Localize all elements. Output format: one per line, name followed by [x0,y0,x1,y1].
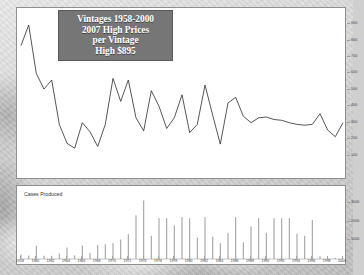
x-tick-label: 1970 [108,259,116,263]
y-tick [347,239,350,240]
cases-bar [105,244,106,259]
cases-plot-area [17,186,345,264]
cases-bar [281,218,282,259]
cases-bar [212,237,213,259]
cases-produced-label: Cases Produced [24,191,62,197]
cases-bar [228,233,229,259]
y-tick-label: 200 [351,136,357,140]
cases-bar-series [17,186,345,264]
x-tick-label: 1964 [62,259,70,263]
cases-bar [143,200,144,259]
y-tick-label: 800 [351,38,357,42]
cases-bar [243,242,244,259]
x-tick-label: 1962 [47,259,55,263]
x-tick-label: 1958 [16,259,24,263]
cases-produced-panel: Cases Produced [16,185,346,265]
cases-bar [304,236,305,259]
y-tick [347,72,350,73]
x-tick-label: 1968 [93,259,101,263]
x-tick-label: 1976 [154,259,162,263]
cases-bar [182,217,183,259]
x-axis-years: 1958196019621964196619681970197219741976… [16,258,346,268]
x-tick-label: 1974 [139,259,147,263]
y-tick [347,122,350,123]
y-tick-label: 900 [351,21,357,25]
cases-y-axis: 300020001000 [347,185,364,265]
title-line-2: 2007 High Prices [63,25,168,36]
y-tick [347,221,350,222]
y-tick-label: 3000 [351,200,359,204]
x-tick-label: 1994 [292,259,300,263]
x-tick-label: 1982 [200,259,208,263]
x-tick-label: 1990 [261,259,269,263]
cases-bar [136,215,137,259]
y-tick [347,56,350,57]
cases-bar [151,236,152,259]
cases-bar [274,218,275,259]
y-tick [347,155,350,156]
y-tick-label: 600 [351,70,357,74]
x-tick-label: 1980 [185,259,193,263]
y-tick [347,40,350,41]
x-tick-label: 1978 [169,259,177,263]
x-tick-label: 1986 [231,259,239,263]
cases-bar [205,217,206,259]
cases-bar [120,240,121,260]
x-tick-label: 2000 [338,259,346,263]
title-line-4: High $895 [63,46,168,57]
title-line-3: per Vintage [63,35,168,46]
x-tick-label: 1972 [123,259,131,263]
x-tick-label: 1984 [215,259,223,263]
cases-bar [166,218,167,259]
cases-bar [289,218,290,259]
y-tick-label: 500 [351,87,357,91]
y-tick [347,202,350,203]
y-tick-label: 2000 [351,219,359,223]
y-tick [347,89,350,90]
x-tick-label: 1998 [323,259,331,263]
y-tick [347,138,350,139]
y-tick-label: 400 [351,103,357,107]
chart-title-box: Vintages 1958-2000 2007 High Prices per … [58,10,173,61]
cases-bar [251,226,252,259]
y-tick-label: 1000 [351,237,359,241]
y-tick [347,23,350,24]
x-tick-label: 1966 [77,259,85,263]
x-tick-label: 1988 [246,259,254,263]
cases-bar [235,217,236,259]
y-tick-label: 300 [351,120,357,124]
y-tick-label: 100 [351,153,357,157]
chart-frame: 900800700600500400300200100 Vintages 195… [16,7,346,267]
x-tick-label: 1996 [307,259,315,263]
x-tick-label: 1960 [31,259,39,263]
cases-bar [312,220,313,259]
cases-bar [159,218,160,259]
title-line-1: Vintages 1958-2000 [63,14,168,25]
y-tick [347,105,350,106]
cases-bar [174,226,175,260]
cases-bar [189,218,190,259]
x-tick-label: 1992 [277,259,285,263]
cases-bar [258,218,259,259]
cases-bar [197,238,198,259]
y-tick-label: 700 [351,54,357,58]
